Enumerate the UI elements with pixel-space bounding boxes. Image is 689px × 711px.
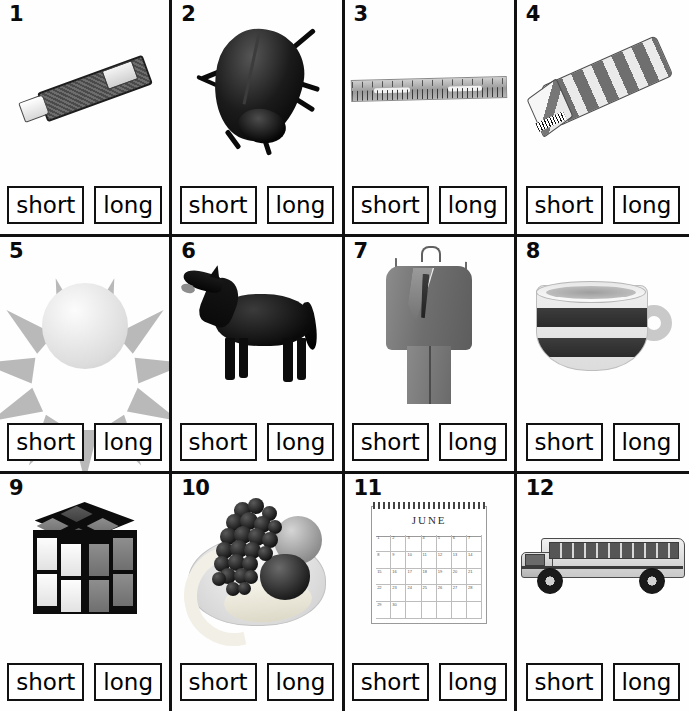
worksheet-page: 1 short long 2 (0, 0, 689, 711)
calendar-day-cell: 17 (406, 569, 421, 586)
cube-tile (61, 544, 81, 576)
calendar-day-cell: 24 (406, 585, 421, 602)
worksheet-grid: 1 short long 2 (0, 0, 689, 711)
cube-tile (113, 574, 133, 606)
worksheet-cell-7[interactable]: 7 short long (345, 237, 517, 474)
horse-leg (239, 338, 248, 378)
answer-row-10: short long (172, 663, 341, 701)
answer-row-5: short long (0, 423, 169, 461)
answer-short-2[interactable]: short (180, 186, 257, 224)
answer-short-7[interactable]: short (352, 423, 429, 461)
answer-row-3: short long (345, 186, 514, 224)
picture-school-bus (517, 480, 689, 646)
calendar-day-cell: 27 (452, 585, 467, 602)
picture-suit (345, 243, 514, 409)
item-number-9: 9 (9, 478, 23, 499)
horse-leg (283, 338, 293, 382)
answer-short-12[interactable]: short (526, 663, 603, 701)
worksheet-cell-4[interactable]: 4 short long (517, 0, 689, 237)
grape (258, 546, 273, 561)
answer-row-11: short long (345, 663, 514, 701)
calendar-spiral-binding (373, 502, 485, 509)
picture-toothpaste-tube (0, 6, 169, 172)
cup-stripe (537, 308, 647, 327)
answer-long-8[interactable]: long (613, 423, 681, 461)
answer-long-7[interactable]: long (439, 423, 507, 461)
answer-short-1[interactable]: short (7, 186, 84, 224)
answer-long-9[interactable]: long (94, 663, 162, 701)
calendar-day-cell: 21 (467, 569, 482, 586)
worksheet-cell-2[interactable]: 2 short long (172, 0, 344, 237)
ruler-body (351, 76, 507, 102)
calendar-day-cell: 18 (422, 569, 437, 586)
calendar-day-cell: 12 (437, 552, 452, 569)
calendar-day-cell: 19 (437, 569, 452, 586)
answer-row-12: short long (517, 663, 689, 701)
answer-short-3[interactable]: short (352, 186, 429, 224)
worksheet-cell-10[interactable]: 10 short long (172, 474, 344, 711)
bus-windows (549, 542, 679, 559)
calendar-day-cell: 15 (376, 569, 391, 586)
answer-short-10[interactable]: short (180, 663, 257, 701)
item-number-3: 3 (354, 4, 368, 25)
worksheet-cell-12[interactable]: 12 short long (517, 474, 689, 711)
bus-wheel (537, 568, 563, 594)
answer-row-1: short long (0, 186, 169, 224)
answer-row-4: short long (517, 186, 689, 224)
answer-long-2[interactable]: long (267, 186, 335, 224)
answer-long-4[interactable]: long (613, 186, 681, 224)
picture-sun (0, 243, 169, 409)
answer-row-6: short long (172, 423, 341, 461)
calendar-day-cell: 25 (422, 585, 437, 602)
worksheet-cell-5[interactable]: 5 short long (0, 237, 172, 474)
calendar-day-cell: 23 (391, 585, 406, 602)
item-number-1: 1 (9, 4, 23, 25)
toothpaste-body (37, 55, 153, 122)
answer-long-12[interactable]: long (613, 663, 681, 701)
picture-ruler (345, 6, 514, 172)
worksheet-cell-8[interactable]: 8 short long (517, 237, 689, 474)
cup-stripe (537, 338, 647, 357)
item-number-5: 5 (9, 241, 23, 262)
calendar-day-cell: 1 (376, 535, 391, 552)
calendar-day-cell: 3 (406, 535, 421, 552)
answer-long-5[interactable]: long (94, 423, 162, 461)
calendar-day-cell: 6 (452, 535, 467, 552)
item-number-8: 8 (526, 241, 540, 262)
answer-long-3[interactable]: long (439, 186, 507, 224)
calendar-month-label: JUNE (372, 514, 486, 526)
calendar-day-cell (437, 602, 452, 619)
sun-ray (134, 350, 172, 383)
picture-calendar: JUNE 12345678910111213141516171819202122… (345, 480, 514, 646)
worksheet-cell-1[interactable]: 1 short long (0, 0, 172, 237)
picture-rubiks-cube (0, 480, 169, 646)
answer-short-5[interactable]: short (7, 423, 84, 461)
item-number-11: 11 (354, 478, 382, 499)
calendar-day-cell: 29 (376, 602, 391, 619)
calendar-day-cell: 22 (376, 585, 391, 602)
answer-short-11[interactable]: short (352, 663, 429, 701)
worksheet-cell-11[interactable]: 11 JUNE 12345678910111213141516171819202… (345, 474, 517, 711)
picture-fruit-bowl (172, 480, 341, 646)
answer-short-9[interactable]: short (7, 663, 84, 701)
answer-short-6[interactable]: short (180, 423, 257, 461)
picture-beetle (172, 6, 341, 172)
horse-leg (225, 338, 235, 380)
worksheet-cell-6[interactable]: 6 short long (172, 237, 344, 474)
calendar-day-cell (467, 602, 482, 619)
answer-long-6[interactable]: long (267, 423, 335, 461)
answer-short-4[interactable]: short (526, 186, 603, 224)
calendar-day-cell: 20 (452, 569, 467, 586)
item-number-7: 7 (354, 241, 368, 262)
calendar-day-cell (452, 602, 467, 619)
answer-row-9: short long (0, 663, 169, 701)
worksheet-cell-9[interactable]: 9 (0, 474, 172, 711)
answer-long-11[interactable]: long (439, 663, 507, 701)
answer-long-10[interactable]: long (267, 663, 335, 701)
bus-windshield (525, 554, 545, 566)
calendar-day-cell: 13 (452, 552, 467, 569)
worksheet-cell-3[interactable]: 3 short long (345, 0, 517, 237)
answer-short-8[interactable]: short (526, 423, 603, 461)
calendar-day-grid: 1234567891011121314151617181920212223242… (376, 535, 482, 619)
answer-long-1[interactable]: long (94, 186, 162, 224)
